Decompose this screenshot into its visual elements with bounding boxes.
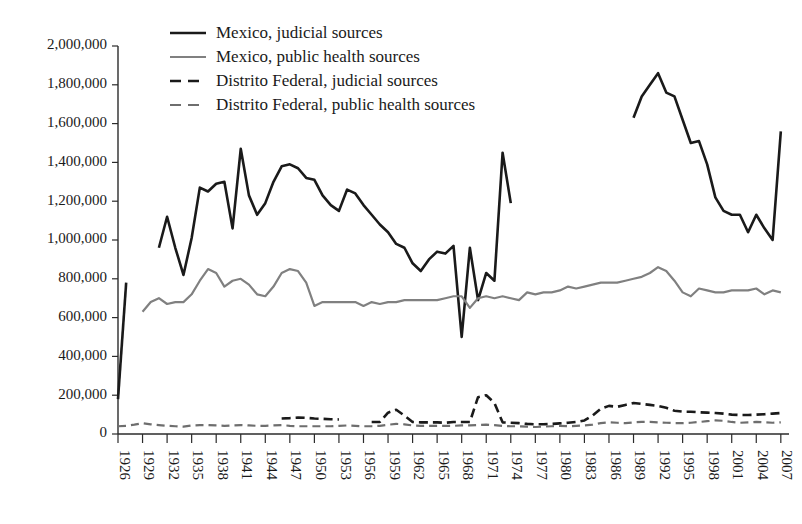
x-tick-label: 1974 bbox=[509, 450, 525, 481]
series-line bbox=[118, 283, 126, 399]
chart-legend: Mexico, judicial sourcesMexico, public h… bbox=[170, 23, 475, 114]
x-tick-label: 1983 bbox=[583, 450, 599, 480]
x-tick-label: 1992 bbox=[657, 450, 673, 480]
y-tick-label: 1,800,000 bbox=[47, 75, 107, 91]
y-tick-label: 200,000 bbox=[58, 386, 107, 402]
x-tick-label: 2001 bbox=[730, 450, 746, 480]
x-tick-label: 1926 bbox=[117, 450, 133, 481]
legend-label: Mexico, judicial sources bbox=[216, 23, 383, 42]
series-line bbox=[282, 418, 339, 420]
x-tick-label: 1971 bbox=[485, 450, 501, 480]
x-tick-label: 1980 bbox=[558, 450, 574, 480]
plot-area-series bbox=[118, 73, 781, 427]
x-axis: 1926192919321935193819411944194719501953… bbox=[117, 434, 796, 481]
y-tick-label: 400,000 bbox=[58, 347, 107, 363]
y-tick-label: 1,400,000 bbox=[47, 153, 107, 169]
x-tick-label: 2007 bbox=[779, 450, 795, 481]
series-line bbox=[143, 267, 781, 312]
series-line bbox=[159, 149, 511, 337]
y-tick-label: 1,000,000 bbox=[47, 230, 107, 246]
x-tick-label: 1965 bbox=[436, 450, 452, 480]
y-tick-label: 1,600,000 bbox=[47, 114, 107, 130]
x-tick-label: 1995 bbox=[681, 450, 697, 480]
x-tick-label: 1941 bbox=[239, 450, 255, 480]
x-tick-label: 1998 bbox=[706, 450, 722, 480]
x-tick-label: 1938 bbox=[215, 450, 231, 480]
x-tick-label: 1962 bbox=[411, 450, 427, 480]
y-tick-label: 1,200,000 bbox=[47, 192, 107, 208]
legend-label: Distrito Federal, public health sources bbox=[216, 95, 475, 114]
x-tick-label: 1932 bbox=[166, 450, 182, 480]
x-tick-label: 1935 bbox=[190, 450, 206, 480]
x-tick-label: 1956 bbox=[362, 450, 378, 481]
x-tick-label: 1929 bbox=[141, 450, 157, 480]
x-tick-label: 1944 bbox=[264, 450, 280, 481]
line-chart: 0200,000400,000600,000800,0001,000,0001,… bbox=[0, 0, 802, 524]
series-line bbox=[634, 73, 781, 240]
x-tick-label: 1950 bbox=[313, 450, 329, 480]
chart-container: 0200,000400,000600,000800,0001,000,0001,… bbox=[0, 0, 802, 524]
x-tick-label: 1968 bbox=[460, 450, 476, 480]
y-tick-label: 2,000,000 bbox=[47, 36, 107, 52]
legend-label: Distrito Federal, judicial sources bbox=[216, 71, 438, 90]
x-tick-label: 1953 bbox=[338, 450, 354, 480]
y-tick-label: 800,000 bbox=[58, 269, 107, 285]
x-tick-label: 1986 bbox=[608, 450, 624, 481]
x-tick-label: 1959 bbox=[387, 450, 403, 480]
x-tick-label: 1977 bbox=[534, 450, 550, 481]
y-tick-label: 600,000 bbox=[58, 308, 107, 324]
y-tick-label: 0 bbox=[100, 424, 108, 440]
x-tick-label: 1989 bbox=[632, 450, 648, 480]
x-tick-label: 1947 bbox=[288, 450, 304, 481]
legend-label: Mexico, public health sources bbox=[216, 47, 420, 66]
x-tick-label: 2004 bbox=[755, 450, 771, 481]
y-axis: 0200,000400,000600,000800,0001,000,0001,… bbox=[47, 36, 118, 440]
